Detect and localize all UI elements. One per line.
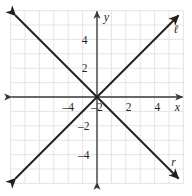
y-tick-label--2: –2 [77, 120, 90, 132]
graph-svg: –4 –2 2 4 4 2 –2 –4 x y ℓ r [0, 0, 192, 196]
x-tick-label-4: 4 [154, 101, 160, 113]
line-label-r: r [171, 156, 176, 168]
y-axis-label: y [103, 10, 110, 24]
x-tick-label--2: –2 [90, 101, 103, 113]
line-label-ell: ℓ [174, 23, 179, 35]
x-axis-label: x [174, 100, 181, 114]
y-tick-label--4: –4 [77, 149, 90, 161]
x-tick-label-2: 2 [126, 101, 132, 113]
y-tick-label-4: 4 [82, 34, 88, 46]
coordinate-plane-figure: –4 –2 2 4 4 2 –2 –4 x y ℓ r [0, 0, 192, 196]
y-tick-label-2: 2 [82, 62, 88, 74]
x-tick-label--4: –4 [61, 101, 74, 113]
